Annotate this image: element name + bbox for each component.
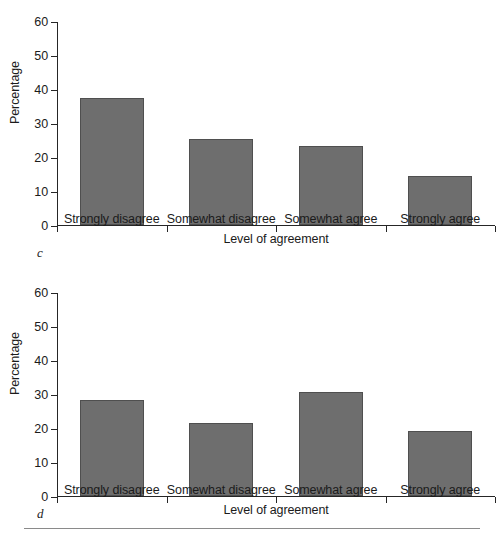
y-tick-d-40: [51, 361, 57, 362]
y-tick-label-c-40: 40: [34, 84, 48, 97]
bar-group-c: [57, 21, 495, 225]
x-category-label-d-0: Strongly disagree: [57, 483, 167, 497]
panel-letter-c: c: [37, 245, 43, 261]
y-tick-label-d-40: 40: [34, 355, 48, 368]
y-tick-label-d-50: 50: [34, 321, 48, 334]
y-tick-c-40: [51, 90, 57, 91]
y-tick-label-d-60: 60: [34, 287, 48, 300]
x-axis-title-c: Level of agreement: [57, 232, 495, 246]
y-tick-label-c-50: 50: [34, 50, 48, 63]
y-tick-label-d-0: 0: [41, 491, 48, 504]
x-tick-d-3: [495, 497, 496, 503]
plot-area-d: 0102030405060: [57, 293, 495, 497]
y-tick-label-c-60: 60: [34, 16, 48, 29]
y-tick-d-10: [51, 463, 57, 464]
y-tick-c-10: [51, 192, 57, 193]
y-tick-c-60: [51, 22, 57, 23]
y-tick-label-d-20: 20: [34, 423, 48, 436]
x-category-label-c-0: Strongly disagree: [57, 212, 167, 226]
x-category-label-c-2: Somewhat agree: [276, 212, 386, 226]
y-tick-c-50: [51, 56, 57, 57]
y-tick-label-d-10: 10: [34, 457, 48, 470]
y-tick-label-d-30: 30: [34, 389, 48, 402]
chart-panel-c: Percentage 0102030405060 Level of agreem…: [0, 0, 504, 271]
y-axis-title-d: Percentage: [8, 332, 22, 395]
footer-divider: [24, 528, 480, 529]
x-axis-title-d: Level of agreement: [57, 503, 495, 517]
x-tick-c-3: [495, 226, 496, 232]
x-category-label-c-1: Somewhat disagree: [167, 212, 277, 226]
y-tick-d-20: [51, 429, 57, 430]
y-tick-label-c-0: 0: [41, 220, 48, 233]
plot-area-c: 0102030405060: [57, 22, 495, 226]
y-tick-d-30: [51, 395, 57, 396]
y-axis-title-c: Percentage: [8, 61, 22, 124]
y-tick-c-20: [51, 158, 57, 159]
bar-d-0: [80, 400, 144, 496]
x-category-label-d-1: Somewhat disagree: [167, 483, 277, 497]
x-category-label-c-3: Strongly agree: [386, 212, 496, 226]
y-tick-c-30: [51, 124, 57, 125]
y-tick-label-c-10: 10: [34, 186, 48, 199]
y-tick-label-c-20: 20: [34, 152, 48, 165]
panel-letter-d: d: [37, 506, 44, 522]
chart-panel-d: Percentage 0102030405060 Level of agreem…: [0, 271, 504, 542]
bar-d-2: [299, 392, 363, 496]
x-category-label-d-3: Strongly agree: [386, 483, 496, 497]
y-tick-d-50: [51, 327, 57, 328]
bar-c-0: [80, 98, 144, 226]
y-tick-label-c-30: 30: [34, 118, 48, 131]
bar-group-d: [57, 292, 495, 496]
x-category-label-d-2: Somewhat agree: [276, 483, 386, 497]
y-tick-d-60: [51, 293, 57, 294]
